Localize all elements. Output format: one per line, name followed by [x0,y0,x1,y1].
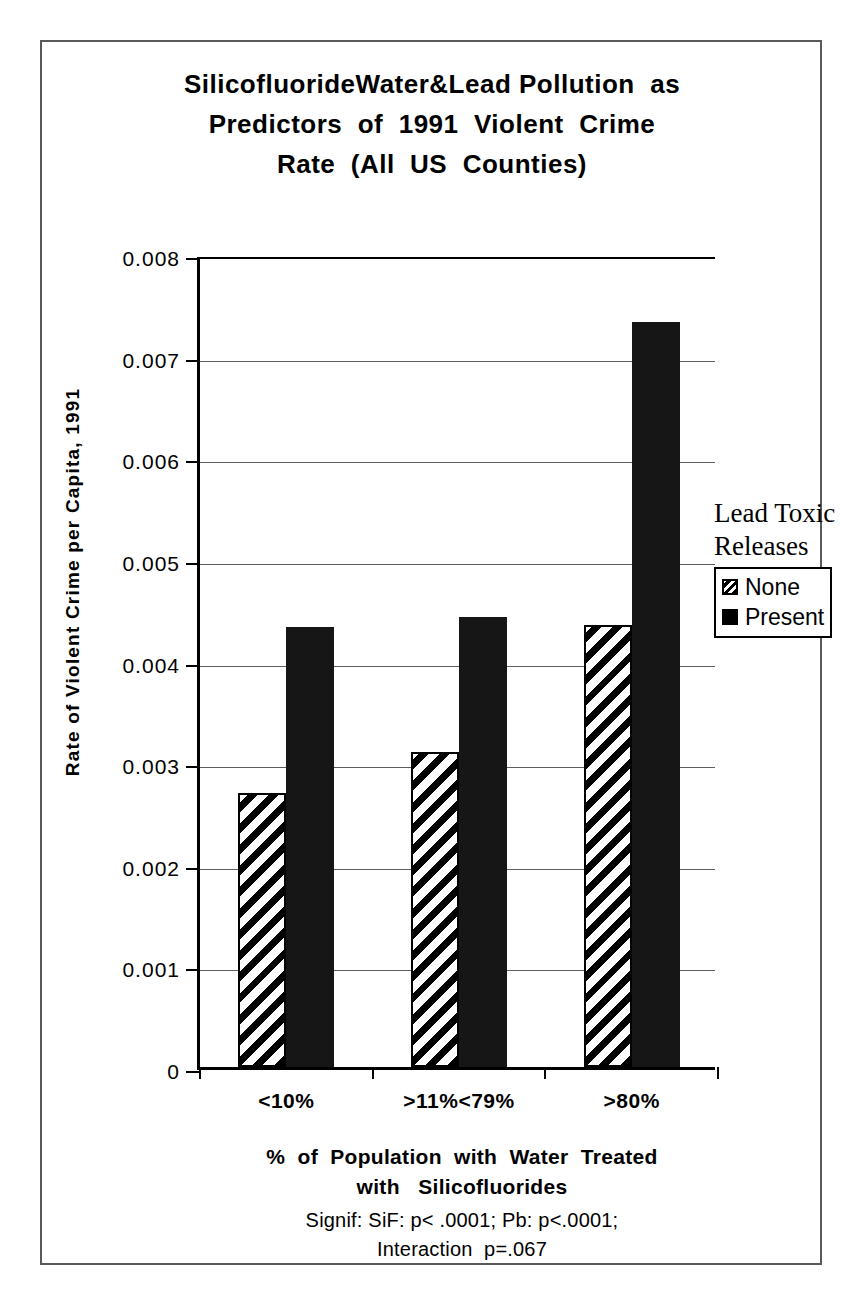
x-axis-tick [199,1067,201,1079]
significance-notes: Signif: SiF: p< .0001; Pb: p<.0001; Inte… [162,1206,762,1264]
chart-title-line-1: SilicofluorideWater&Lead Pollution as [102,64,762,104]
chart-title-line-2: Predictors of 1991 Violent Crime [102,104,762,144]
x-axis-title-line-2: with Silicofluorides [162,1172,762,1202]
legend-entry-present: Present [722,602,824,632]
bar-present-3 [632,322,680,1067]
y-axis-title-label: Rate of Violent Crime per Capita, 1991 [62,388,84,776]
y-axis-tick-label: 0.006 [122,450,180,474]
plot-area: 0.0080.0070.0060.0050.0040.0030.0020.001… [197,257,715,1070]
y-axis-tick-label: 0.002 [122,857,180,881]
legend-box: None Present [714,567,832,638]
y-axis-tick [186,563,200,565]
y-axis-tick-label: 0.004 [122,654,180,678]
legend-entry-none-label: None [745,572,800,602]
chart-title-line-3: Rate (All US Counties) [102,144,762,184]
chart-title: SilicofluorideWater&Lead Pollution as Pr… [102,64,762,184]
bar-none-2 [411,752,459,1067]
legend: Lead Toxic Releases None Present [714,497,864,638]
x-axis-tick [717,1067,719,1079]
y-axis-tick-label: 0.005 [122,552,180,576]
x-axis-tick [544,1067,546,1079]
y-axis-tick [186,258,200,260]
x-axis-title-line-1: % of Population with Water Treated [162,1142,762,1172]
bar-present-1 [286,627,334,1067]
bar-none-3 [584,625,632,1067]
solid-black-square-icon [722,609,738,625]
legend-title-line-1: Lead Toxic [714,497,864,530]
x-axis-category-label: >80% [604,1089,660,1113]
significance-note-line-2: Interaction p=.067 [162,1235,762,1264]
hatched-square-icon [722,579,738,595]
legend-entry-present-label: Present [745,602,824,632]
y-axis-tick-label: 0.001 [122,958,180,982]
y-axis-tick-label: 0.008 [122,247,180,271]
y-axis-tick-label: 0 [167,1060,180,1084]
y-axis-tick [186,1071,200,1073]
legend-title-line-2: Releases [714,530,864,563]
bar-none-1 [238,793,286,1067]
y-axis-tick [186,665,200,667]
figure-frame: SilicofluorideWater&Lead Pollution as Pr… [40,40,822,1265]
y-axis-tick [186,360,200,362]
y-axis-tick [186,969,200,971]
legend-title: Lead Toxic Releases [714,497,864,563]
legend-entry-none: None [722,572,824,602]
y-axis-tick [186,461,200,463]
x-axis-category-label: <10% [258,1089,314,1113]
bar-present-2 [459,617,507,1067]
y-axis-tick-label: 0.003 [122,755,180,779]
y-axis-tick-label: 0.007 [122,349,180,373]
x-axis-title: % of Population with Water Treated with … [162,1142,762,1202]
x-axis-tick [372,1067,374,1079]
significance-note-line-1: Signif: SiF: p< .0001; Pb: p<.0001; [162,1206,762,1235]
y-axis-tick [186,868,200,870]
y-axis-title: Rate of Violent Crime per Capita, 1991 [60,242,86,922]
y-axis-tick [186,766,200,768]
x-axis-category-label: >11%<79% [403,1089,514,1113]
